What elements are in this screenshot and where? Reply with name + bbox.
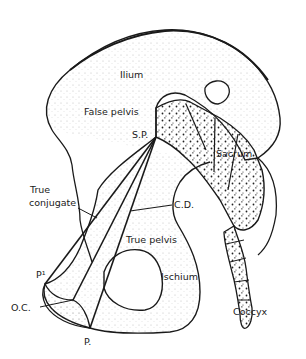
label-false-pelvis: False pelvis: [84, 107, 139, 117]
label-cd: C.D.: [174, 200, 194, 210]
label-true-pelvis: True pelvis: [126, 235, 177, 245]
label-p: P.: [84, 337, 91, 347]
label-oc: O.C.: [11, 303, 31, 313]
label-p1: P¹: [36, 270, 46, 280]
pelvis-diagram: Ilium False pelvis S.P. Sacrum True conj…: [0, 0, 306, 359]
label-coccyx: Coccyx: [233, 307, 267, 317]
label-true-conjugate-line1: True: [30, 184, 50, 196]
label-true-conjugate-line2: conjugate: [29, 197, 76, 209]
label-sp: S.P.: [132, 130, 148, 140]
label-sacrum: Sacrum: [216, 149, 252, 159]
label-ischium: Ischium: [161, 272, 198, 282]
label-ilium: Ilium: [120, 70, 143, 80]
obturator-foramen: [104, 250, 162, 311]
